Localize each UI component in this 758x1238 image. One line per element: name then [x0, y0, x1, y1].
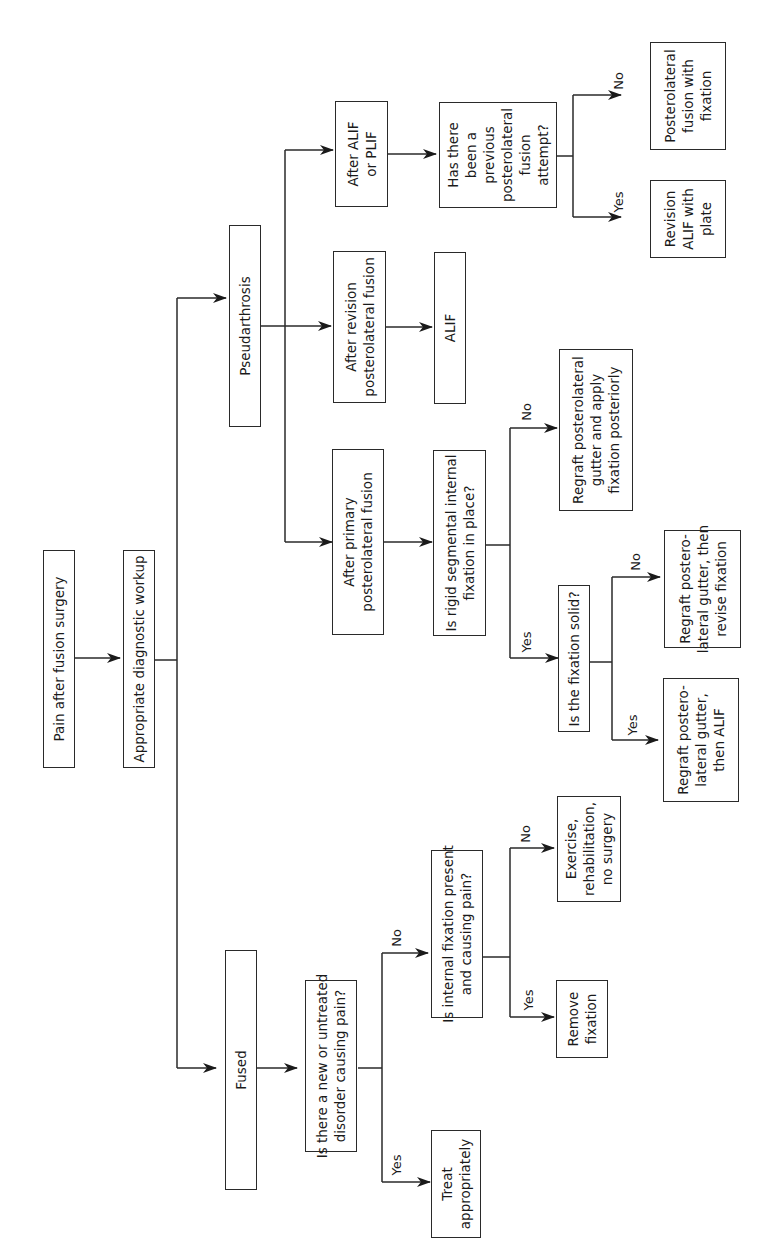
edge-label-yes: Yes: [389, 1155, 404, 1176]
node-posterolateral-fixation: Posterolateral fusion with fixation: [650, 42, 726, 150]
node-fixation-solid: Is the fixation solid?: [558, 585, 590, 732]
node-internal-fixation: Is internal fixation present and causing…: [431, 850, 483, 1018]
edge-label-no: No: [389, 929, 404, 947]
node-rigid-fixation: Is rigid segmental internal fixation in …: [433, 450, 486, 636]
node-after-revision: After revision posterolateral fusion: [333, 251, 386, 403]
node-fused: Fused: [225, 950, 257, 1190]
edge-label-yes: Yes: [519, 632, 534, 653]
node-exercise: Exercise, rehabilitation, no surgery: [557, 796, 621, 902]
node-after-primary: After primary posterolateral fusion: [332, 449, 384, 635]
node-pain-after-fusion: Pain after fusion surgery: [43, 550, 75, 768]
node-regraft-alif: Regraft postero- lateral gutter, then AL…: [663, 678, 739, 802]
edge-label-no: No: [519, 403, 534, 421]
node-previous-attempt: Has there been a previous posterolateral…: [439, 102, 557, 208]
edge-label-yes: Yes: [521, 990, 536, 1011]
edge-label-yes: Yes: [625, 715, 640, 736]
node-new-disorder: Is there a new or untreated disorder cau…: [305, 980, 357, 1152]
node-regraft-apply: Regraft posterolateral gutter and apply …: [559, 349, 633, 511]
edge-label-no: No: [518, 825, 533, 843]
node-pseudarthrosis: Pseudarthrosis: [229, 225, 261, 427]
node-after-alif-plif: After ALIF or PLIF: [335, 101, 388, 207]
node-revision-alif-plate: Revision ALIF with plate: [650, 180, 726, 258]
node-treat-appropriately: Treat appropriately: [431, 1130, 481, 1238]
edge-label-yes: Yes: [611, 192, 626, 213]
edge-label-no: No: [611, 72, 626, 90]
edge-label-no: No: [628, 553, 643, 571]
node-diagnostic-workup: Appropriate diagnostic workup: [123, 550, 155, 768]
node-regraft-revise: Regraft postero- lateral gutter, then re…: [664, 530, 741, 648]
flowchart: Pain after fusion surgery Appropriate di…: [0, 0, 758, 1205]
node-alif: ALIF: [434, 252, 466, 404]
node-remove-fixation: Remove fixation: [556, 980, 608, 1058]
